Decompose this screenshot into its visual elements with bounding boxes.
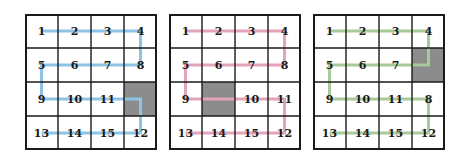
cell-label: 10 bbox=[244, 93, 260, 106]
cell-label: 13 bbox=[322, 127, 337, 140]
cell-label: 15 bbox=[388, 127, 403, 140]
cell-label: 4 bbox=[425, 25, 433, 38]
cell-label: 6 bbox=[359, 59, 367, 72]
cell-label: 2 bbox=[71, 25, 79, 38]
grid-panel-1: 123456789101113141512 bbox=[25, 14, 157, 150]
cell-label: 2 bbox=[359, 25, 367, 38]
cell-label: 5 bbox=[38, 59, 46, 72]
grid-2-svg: 123456789101113141512 bbox=[169, 14, 301, 150]
cell-label: 12 bbox=[277, 127, 292, 140]
cell-label: 6 bbox=[215, 59, 223, 72]
cell-label: 8 bbox=[425, 93, 433, 106]
cell-label: 3 bbox=[392, 25, 400, 38]
cell-label: 2 bbox=[215, 25, 223, 38]
cell-label: 3 bbox=[248, 25, 256, 38]
cell-label: 11 bbox=[100, 93, 115, 106]
cell-label: 10 bbox=[355, 93, 371, 106]
cell-label: 6 bbox=[71, 59, 79, 72]
cell-label: 15 bbox=[100, 127, 115, 140]
grid-3-svg: 123456791011813141512 bbox=[313, 14, 445, 150]
cell-label: 1 bbox=[38, 25, 46, 38]
cell-label: 7 bbox=[392, 59, 400, 72]
grid-1-svg: 123456789101113141512 bbox=[25, 14, 157, 150]
cell-label: 14 bbox=[355, 127, 371, 140]
cell-label: 5 bbox=[326, 59, 334, 72]
cell-label: 13 bbox=[34, 127, 49, 140]
cell-label: 15 bbox=[244, 127, 259, 140]
cell-label: 7 bbox=[248, 59, 256, 72]
cell-label: 13 bbox=[178, 127, 193, 140]
cell-label: 9 bbox=[38, 93, 46, 106]
cell-label: 10 bbox=[67, 93, 83, 106]
cell-label: 12 bbox=[133, 127, 148, 140]
cell-label: 14 bbox=[67, 127, 83, 140]
cell-label: 8 bbox=[281, 59, 289, 72]
cell-label: 4 bbox=[281, 25, 289, 38]
cell-label: 1 bbox=[182, 25, 190, 38]
cell-label: 12 bbox=[421, 127, 436, 140]
grid-panel-2: 123456789101113141512 bbox=[169, 14, 301, 150]
cell-label: 7 bbox=[104, 59, 112, 72]
cell-label: 5 bbox=[182, 59, 190, 72]
cell-label: 9 bbox=[326, 93, 334, 106]
cell-label: 11 bbox=[388, 93, 403, 106]
cell-label: 1 bbox=[326, 25, 334, 38]
cell-label: 9 bbox=[182, 93, 190, 106]
grid-panel-3: 123456791011813141512 bbox=[313, 14, 445, 150]
cell-label: 4 bbox=[137, 25, 145, 38]
cell-label: 11 bbox=[277, 93, 292, 106]
cell-label: 3 bbox=[104, 25, 112, 38]
cell-label: 8 bbox=[137, 59, 145, 72]
cell-label: 14 bbox=[211, 127, 227, 140]
